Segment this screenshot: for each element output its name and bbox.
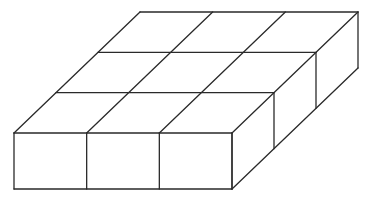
top-depth-edge [87, 12, 213, 133]
cube-arrangement-diagram [0, 0, 373, 197]
top-depth-edge [159, 12, 285, 133]
right-bottom-edge [232, 68, 358, 189]
top-depth-edge [14, 12, 140, 133]
top-depth-edge [232, 12, 358, 133]
cube-edges [14, 12, 358, 189]
